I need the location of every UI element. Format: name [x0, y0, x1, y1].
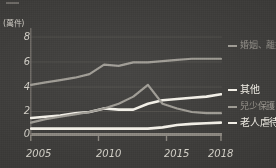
legend-item-elder: 老人虐待 — [228, 117, 276, 128]
legend-label-elder: 老人虐待 — [240, 117, 276, 128]
y-tick-0: 0 — [24, 129, 30, 139]
legend-swatch-marriage — [228, 45, 237, 47]
series-line-2 — [31, 85, 221, 123]
legend-label-other: 其他 — [240, 84, 260, 95]
y-tick-4: 4 — [24, 82, 30, 92]
y-tick-6: 6 — [24, 57, 30, 67]
x-tick-2010: 2010 — [96, 148, 121, 159]
legend-swatch-elder — [228, 122, 237, 124]
legend-item-child: 兒少保護 — [228, 101, 275, 112]
x-tick-2015: 2015 — [164, 148, 189, 159]
series-line-0 — [31, 59, 221, 85]
legend-label-marriage: 婚姻、離婚或同居關係暴力 — [240, 40, 276, 51]
legend-label-child: 兒少保護 — [240, 101, 275, 112]
series-lines — [31, 59, 221, 129]
y-tick-2: 2 — [24, 106, 30, 116]
legend-item-other: 其他 — [228, 84, 260, 95]
y-axis: 8 6 4 2 0 — [0, 0, 30, 168]
legend-item-marriage: 婚姻、離婚或同居關係暴力 — [228, 40, 276, 51]
legend-swatch-child — [228, 106, 237, 108]
chart-plot-area — [30, 28, 222, 142]
x-tick-2005: 2005 — [26, 148, 51, 159]
y-tick-8: 8 — [24, 32, 30, 42]
series-line-3 — [31, 123, 221, 129]
legend-swatch-other — [228, 89, 237, 91]
series-line-1 — [31, 94, 221, 118]
x-tick-2018: 2018 — [208, 148, 233, 159]
